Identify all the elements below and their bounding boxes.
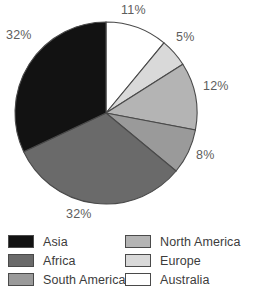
- legend-item-north-america: North America: [125, 232, 252, 251]
- pie-slices: [15, 22, 197, 204]
- legend-swatch-europe: [125, 254, 151, 267]
- slice-label-australia: 11%: [121, 3, 146, 17]
- legend-label-australia: Australia: [160, 273, 210, 287]
- pie-chart-svg: [0, 0, 256, 228]
- legend-swatch-asia: [8, 235, 34, 248]
- chart-legend: Asia North America Africa Europe South A…: [8, 232, 252, 290]
- legend-swatch-africa: [8, 254, 34, 267]
- slice-label-europe: 5%: [176, 30, 194, 44]
- legend-label-europe: Europe: [160, 254, 201, 268]
- legend-label-asia: Asia: [43, 235, 68, 249]
- legend-item-africa: Africa: [8, 251, 125, 270]
- legend-label-north-america: North America: [160, 235, 241, 249]
- legend-label-africa: Africa: [43, 254, 76, 268]
- legend-swatch-south-america: [8, 273, 34, 286]
- legend-item-asia: Asia: [8, 232, 125, 251]
- legend-item-australia: Australia: [125, 270, 252, 289]
- legend-swatch-australia: [125, 273, 151, 286]
- legend-item-europe: Europe: [125, 251, 252, 270]
- slice-label-africa: 32%: [66, 207, 92, 221]
- slice-label-north-america: 12%: [203, 79, 229, 93]
- slice-label-asia: 32%: [6, 28, 32, 42]
- legend-label-south-america: South America: [43, 273, 126, 287]
- slice-label-south-america: 8%: [196, 148, 214, 162]
- pie-chart: 11% 5% 12% 8% 32% 32%: [0, 0, 256, 228]
- legend-item-south-america: South America: [8, 270, 125, 289]
- legend-swatch-north-america: [125, 235, 151, 248]
